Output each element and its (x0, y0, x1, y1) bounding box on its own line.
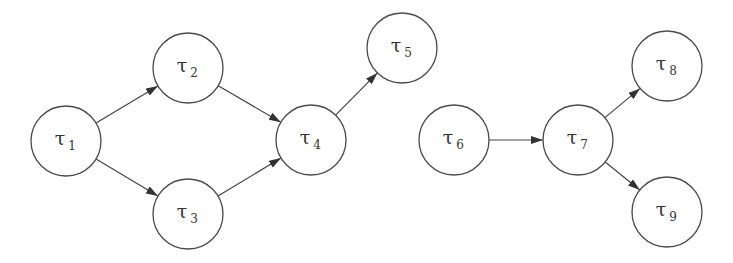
node-subscript: 2 (190, 66, 198, 80)
node-label: τ (300, 126, 311, 148)
node-label: τ (55, 127, 66, 149)
node-label: τ (443, 126, 454, 148)
node-t5: τ5 (367, 13, 437, 83)
node-circle (543, 105, 613, 175)
node-t8: τ8 (632, 31, 702, 101)
node-circle (153, 179, 223, 249)
node-label: τ (567, 126, 578, 148)
node-subscript: 5 (404, 46, 412, 60)
node-label: τ (656, 52, 667, 74)
edge-t1-to-t3 (96, 159, 158, 196)
node-label: τ (177, 54, 188, 76)
node-subscript: 4 (313, 138, 321, 152)
node-label: τ (391, 34, 402, 56)
node-t7: τ7 (543, 105, 613, 175)
node-circle (367, 13, 437, 83)
node-subscript: 1 (68, 139, 76, 153)
task-graph: τ1τ2τ3τ4τ5τ6τ7τ8τ9 (0, 0, 733, 263)
node-label: τ (656, 198, 667, 220)
node-circle (31, 106, 101, 176)
node-t3: τ3 (153, 179, 223, 249)
node-circle (276, 105, 346, 175)
node-circle (632, 31, 702, 101)
node-t2: τ2 (153, 33, 223, 103)
node-t6: τ6 (419, 105, 489, 175)
nodes-layer: τ1τ2τ3τ4τ5τ6τ7τ8τ9 (31, 13, 702, 249)
node-t4: τ4 (276, 105, 346, 175)
node-circle (419, 105, 489, 175)
edge-t3-to-t4 (218, 158, 281, 196)
node-subscript: 3 (190, 212, 198, 226)
node-circle (153, 33, 223, 103)
node-t9: τ9 (632, 177, 702, 247)
edge-t7-to-t9 (605, 162, 640, 190)
node-subscript: 9 (669, 210, 677, 224)
node-subscript: 7 (580, 138, 588, 152)
edge-t7-to-t8 (605, 88, 640, 117)
node-circle (632, 177, 702, 247)
node-subscript: 6 (456, 138, 464, 152)
edge-t2-to-t4 (218, 86, 281, 123)
node-label: τ (177, 200, 188, 222)
node-t1: τ1 (31, 106, 101, 176)
node-subscript: 8 (669, 64, 677, 78)
edge-t1-to-t2 (96, 86, 158, 123)
edge-t4-to-t5 (336, 73, 378, 115)
